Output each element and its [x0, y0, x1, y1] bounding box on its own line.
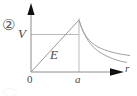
y-axis-value-label: V: [18, 27, 26, 40]
origin-label: 0: [27, 74, 33, 85]
x-axis-arrowhead-icon: [110, 68, 124, 76]
physics-field-potential-diagram: ② V E 0 a r: [0, 0, 137, 96]
series-inner-linear-rise: [31, 20, 79, 72]
series-outer-decay-lower: [79, 20, 127, 63]
diagram-canvas: [0, 0, 137, 96]
cropped-next-item-marker: [3, 88, 17, 96]
field-region-label: E: [50, 48, 58, 61]
y-axis-arrowhead-icon: [27, 3, 34, 15]
x-tick-label-a: a: [75, 74, 81, 85]
item-number-label: ②: [2, 18, 15, 33]
x-axis-label: r: [125, 63, 129, 74]
